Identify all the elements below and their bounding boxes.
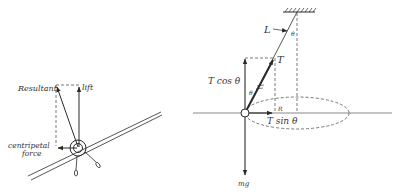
radius-label: R	[277, 105, 283, 112]
theta-top-label: θ	[291, 30, 295, 37]
length-label: L	[263, 24, 271, 35]
t-cos-label: T cos θ	[208, 76, 241, 86]
tension-arrow	[245, 60, 273, 113]
pendulum-bob-icon	[241, 109, 249, 117]
conical-pendulum-figure: L θ T T cos θ θ R T sin θ mg	[193, 8, 392, 188]
resultant-arrow	[57, 87, 78, 147]
tension-label: T	[277, 54, 285, 65]
length-pointer-arrow	[273, 29, 287, 31]
banked-aircraft-figure: Resultant lift centripetal force	[8, 83, 162, 180]
physics-diagram: Resultant lift centripetal force	[0, 0, 402, 192]
weight-label: mg	[238, 180, 250, 188]
force-label: force	[21, 149, 42, 158]
lift-label: lift	[82, 83, 94, 92]
t-sin-label: T sin θ	[267, 116, 298, 126]
resultant-label: Resultant	[17, 84, 58, 93]
ceiling-support-icon	[283, 8, 316, 12]
theta-side-label: θ	[249, 89, 253, 96]
